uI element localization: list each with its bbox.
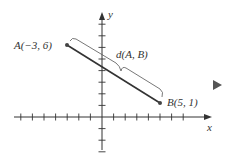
distance-label: d(A, B) [116,48,148,61]
x-axis [14,114,212,121]
y-axis-arrow-icon [99,12,105,20]
point-b [158,101,162,105]
point-a-label: A(−3, 6) [13,39,52,52]
x-axis-arrow-icon [204,114,212,120]
x-axis-label: x [206,121,212,133]
point-a [65,43,69,47]
point-b-label: B(5, 1) [167,96,198,109]
y-axis-label: y [107,8,113,20]
y-axis [99,12,106,152]
distance-diagram: y x A(−3, 6) B(5, 1) d(A, B) [0,0,228,159]
play-triangle-icon[interactable] [213,80,222,90]
